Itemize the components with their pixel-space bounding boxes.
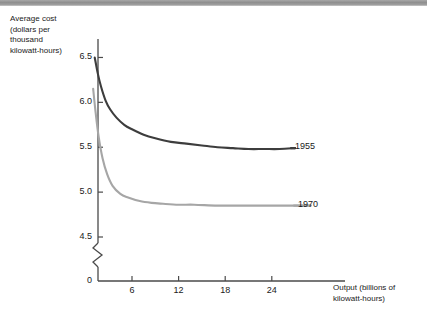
series-label-1955: 1955 [295, 141, 315, 151]
x-tick-label: 6 [122, 285, 142, 295]
series-line-1970 [93, 89, 310, 206]
series-label-leaders-group [291, 148, 311, 205]
y-tick-label: 6.5 [64, 51, 92, 61]
data-series-group [93, 57, 310, 205]
y-tick-label: 5.0 [64, 186, 92, 196]
axis-ticks-group [98, 57, 272, 281]
x-tick-label: 18 [215, 285, 235, 295]
chart-figure: Average cost (dollars per thousand kilow… [0, 6, 427, 322]
x-tick-label: 24 [262, 285, 282, 295]
series-line-1955 [95, 57, 295, 149]
y-tick-label: 5.5 [64, 141, 92, 151]
series-label-1970: 1970 [298, 199, 318, 209]
x-tick-label: 12 [169, 285, 189, 295]
axes-group [93, 39, 345, 281]
y-tick-label: 0 [64, 275, 92, 285]
y-tick-label: 6.0 [64, 96, 92, 106]
y-tick-label: 4.5 [64, 231, 92, 241]
